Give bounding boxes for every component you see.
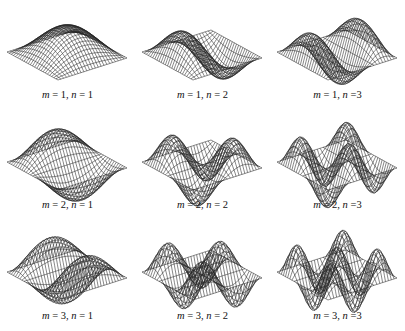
wireframe-mesh [142, 135, 262, 206]
wireframe-mesh [7, 129, 127, 201]
panel-m1-n3: m = 1, n =3 [270, 0, 405, 110]
wireframe-mesh [277, 122, 397, 207]
panel-label: m = 1, n = 1 [0, 89, 135, 100]
panel-m3-n1: m = 3, n = 1 [0, 220, 135, 330]
panel-label: m = 3, n = 1 [0, 310, 135, 321]
wireframe-mesh [142, 30, 262, 80]
panel-label: m = 2, n =3 [270, 199, 405, 210]
panel-label: m = 2, n = 1 [0, 199, 135, 210]
panel-m2-n2: m = 2, n = 2 [135, 110, 270, 220]
panel-m2-n3: m = 2, n =3 [270, 110, 405, 220]
panel-label: m = 3, n = 2 [135, 310, 270, 321]
wireframe-mesh [277, 18, 397, 84]
panel-m1-n1: m = 1, n = 1 [0, 0, 135, 110]
panel-m1-n2: m = 1, n = 2 [135, 0, 270, 110]
panel-label: m = 1, n =3 [270, 89, 405, 100]
panel-label: m = 3, n =3 [270, 310, 405, 321]
wireframe-mesh [142, 241, 262, 308]
wireframe-mesh [7, 237, 127, 304]
wireframe-mesh [277, 230, 397, 312]
panel-m3-n3: m = 3, n =3 [270, 220, 405, 330]
panel-label: m = 2, n = 2 [135, 199, 270, 210]
mode-shape-grid: m = 1, n = 1 m = 1, n = 2 m = 1, n =3 m … [0, 0, 405, 331]
panel-m2-n1: m = 2, n = 1 [0, 110, 135, 220]
panel-m3-n2: m = 3, n = 2 [135, 220, 270, 330]
panel-label: m = 1, n = 2 [135, 89, 270, 100]
wireframe-mesh [7, 25, 127, 80]
